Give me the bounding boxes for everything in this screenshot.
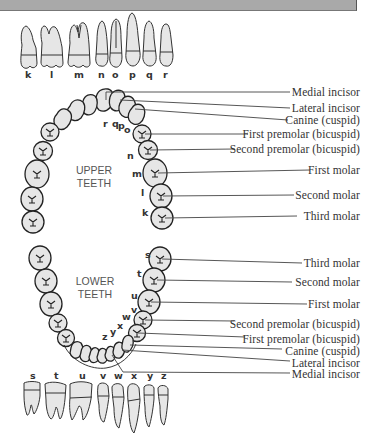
arch-letter-u: u bbox=[131, 291, 138, 301]
arch-letter-l: l bbox=[141, 188, 144, 198]
label-upper-lateral-incisor: Lateral incisor bbox=[292, 102, 360, 114]
tooth-letter-q: q bbox=[146, 70, 153, 80]
arch-letter-r: r bbox=[103, 119, 108, 129]
tooth-letter-y: y bbox=[147, 371, 153, 381]
upper-title-line1: UPPER bbox=[64, 164, 124, 177]
upper-title-line2: TEETH bbox=[64, 177, 124, 190]
tooth-letter-w: w bbox=[114, 371, 123, 381]
tooth-letter-v: v bbox=[100, 371, 106, 381]
label-lower-first-molar: First molar bbox=[308, 298, 360, 310]
tooth-letter-t: t bbox=[54, 371, 59, 381]
label-upper-third-molar: Third molar bbox=[304, 210, 360, 222]
tooth-letter-k: k bbox=[25, 70, 31, 80]
label-lower-first-premolar: First premolar (bicuspid) bbox=[243, 333, 360, 345]
tooth-letter-p: p bbox=[129, 70, 136, 80]
arch-letter-w: w bbox=[122, 312, 131, 322]
tooth-letter-n: n bbox=[98, 70, 105, 80]
arch-letter-m: m bbox=[132, 169, 142, 179]
label-lower-second-molar: Second molar bbox=[295, 276, 360, 288]
label-lower-third-molar: Third molar bbox=[304, 257, 360, 269]
tooth-letter-r: r bbox=[163, 70, 168, 80]
label-upper-canine: Canine (cuspid) bbox=[285, 114, 360, 126]
arch-letter-z: z bbox=[102, 332, 108, 342]
lower-side-teeth-row bbox=[24, 382, 168, 434]
label-upper-second-molar: Second molar bbox=[295, 189, 360, 201]
tooth-letter-o: o bbox=[112, 70, 119, 80]
label-lower-second-premolar: Second premolar (bicuspid) bbox=[230, 318, 360, 330]
tooth-letter-x: x bbox=[131, 371, 137, 381]
label-upper-first-premolar: First premolar (bicuspid) bbox=[243, 128, 360, 140]
arch-letter-t: t bbox=[137, 269, 142, 279]
arch-letter-n: n bbox=[127, 151, 134, 161]
label-upper-second-premolar: Second premolar (bicuspid) bbox=[230, 143, 360, 155]
arch-letter-s: s bbox=[145, 250, 151, 260]
tooth-letter-u: u bbox=[79, 371, 86, 381]
tooth-letter-s: s bbox=[30, 371, 36, 381]
lower-title-line2: TEETH bbox=[65, 288, 125, 301]
label-upper-medial-incisor: Medial incisor bbox=[292, 86, 360, 98]
upper-teeth-title: UPPER TEETH bbox=[64, 164, 124, 190]
arch-letter-o: o bbox=[124, 125, 131, 135]
label-lower-canine: Canine (cuspid) bbox=[285, 345, 360, 357]
tooth-letter-z: z bbox=[161, 371, 167, 381]
lower-teeth-title: LOWER TEETH bbox=[65, 275, 125, 301]
lower-arch bbox=[29, 246, 171, 368]
label-lower-medial-incisor: Medial incisor bbox=[292, 368, 360, 380]
arch-letter-v: v bbox=[131, 305, 137, 315]
upper-side-teeth-row bbox=[21, 13, 173, 68]
tooth-letter-m: m bbox=[74, 70, 84, 80]
arch-letter-k: k bbox=[142, 208, 148, 218]
label-upper-first-molar: First molar bbox=[308, 164, 360, 176]
lower-title-line1: LOWER bbox=[65, 275, 125, 288]
tooth-letter-l: l bbox=[50, 70, 53, 80]
arch-letter-x: x bbox=[117, 321, 123, 331]
arch-letter-y: y bbox=[110, 327, 116, 337]
